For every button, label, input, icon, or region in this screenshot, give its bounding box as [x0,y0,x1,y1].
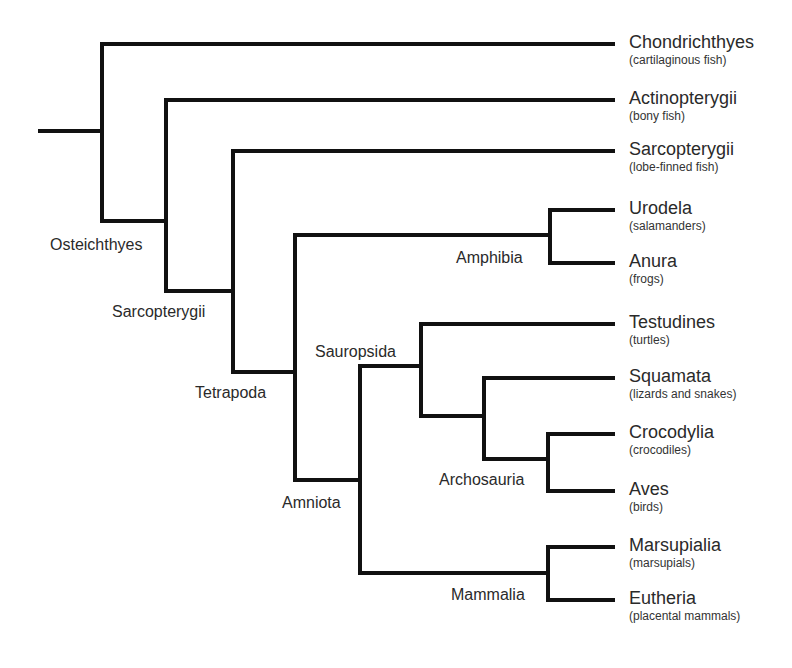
clade-label-mammalia: Mammalia [451,586,525,604]
leaf-common-name: (turtles) [629,333,715,347]
leaf-name: Chondrichthyes [629,32,754,52]
leaf-name: Sarcopterygii [629,139,734,159]
leaf-name: Anura [629,251,677,271]
leaf-urodela: Urodela (salamanders) [629,198,706,233]
leaf-marsupialia: Marsupialia (marsupials) [629,535,721,570]
leaf-name: Squamata [629,366,736,386]
leaf-chondrichthyes: Chondrichthyes (cartilaginous fish) [629,32,754,67]
leaf-common-name: (frogs) [629,272,677,286]
clade-label-amphibia: Amphibia [456,249,523,267]
clade-label-sarcopterygii: Sarcopterygii [112,303,205,321]
leaf-actinopterygii: Actinopterygii (bony fish) [629,88,737,123]
leaf-common-name: (cartilaginous fish) [629,53,754,67]
clade-label-sauropsida: Sauropsida [315,343,396,361]
leaf-name: Marsupialia [629,535,721,555]
leaf-common-name: (lizards and snakes) [629,387,736,401]
leaf-name: Testudines [629,312,715,332]
clade-label-archosauria: Archosauria [439,471,524,489]
leaf-aves: Aves (birds) [629,479,669,514]
leaf-common-name: (placental mammals) [629,609,740,623]
leaf-testudines: Testudines (turtles) [629,312,715,347]
leaf-common-name: (marsupials) [629,556,721,570]
leaf-name: Aves [629,479,669,499]
leaf-common-name: (birds) [629,500,669,514]
leaf-crocodylia: Crocodylia (crocodiles) [629,422,714,457]
leaf-common-name: (lobe-finned fish) [629,160,734,174]
leaf-eutheria: Eutheria (placental mammals) [629,588,740,623]
leaf-name: Eutheria [629,588,740,608]
clade-label-amniota: Amniota [282,494,341,512]
leaf-common-name: (crocodiles) [629,443,714,457]
leaf-common-name: (salamanders) [629,219,706,233]
leaf-anura: Anura (frogs) [629,251,677,286]
leaf-common-name: (bony fish) [629,109,737,123]
leaf-name: Urodela [629,198,706,218]
leaf-squamata: Squamata (lizards and snakes) [629,366,736,401]
leaf-name: Actinopterygii [629,88,737,108]
clade-label-tetrapoda: Tetrapoda [195,384,266,402]
leaf-sarcopterygii: Sarcopterygii (lobe-finned fish) [629,139,734,174]
clade-label-osteichthyes: Osteichthyes [50,236,142,254]
leaf-name: Crocodylia [629,422,714,442]
